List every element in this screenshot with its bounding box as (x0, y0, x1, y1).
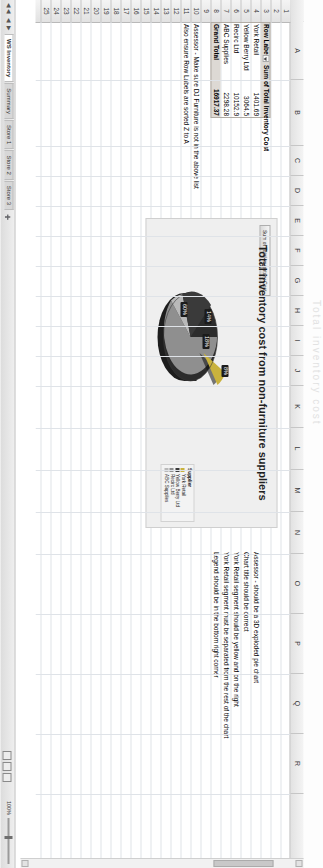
column-header-k[interactable]: K (290, 386, 303, 428)
row-header-12[interactable]: 12 (170, 0, 180, 22)
row-header-5[interactable]: 5 (240, 0, 250, 22)
zoom-slider[interactable] (7, 818, 9, 864)
column-header-f[interactable]: F (290, 236, 303, 266)
note-right-1[interactable]: Chart title should be correct (240, 552, 250, 631)
cells-canvas[interactable]: Row Labels Sum of Total Inventory Cost Y… (35, 22, 290, 868)
note-right-0[interactable]: Assessor - should be a 3D exploded pie c… (250, 552, 260, 683)
column-header-c[interactable]: C (290, 146, 303, 176)
column-header-j[interactable]: J (290, 356, 303, 386)
pivot-row-value-1[interactable]: 3064.5 (240, 82, 250, 116)
pie-plot-area[interactable]: 8% 18% 60% 14% (150, 279, 234, 409)
legend-item-3[interactable]: ABC Supplies (164, 468, 169, 518)
row-header-7[interactable]: 7 (220, 0, 230, 22)
row-header-25[interactable]: 25 (40, 0, 50, 22)
row-header-23[interactable]: 23 (60, 0, 70, 22)
sheet-tab-store-3[interactable]: Store 3 (4, 181, 13, 210)
vertical-scrollbar[interactable] (20, 858, 303, 868)
row-header-1[interactable]: 1 (280, 0, 290, 22)
pivot-row-value-3[interactable]: 2298.28 (220, 82, 230, 116)
pivot-row-label-1[interactable]: Yellow Berry Ltd (240, 24, 250, 71)
column-header-e[interactable]: E (290, 206, 303, 236)
row-header-band: 1234567891011121314151617181920212223242… (35, 0, 290, 23)
chart-legend[interactable]: Supplier York Retail Yellow Berry Ltd (160, 464, 194, 522)
grid-hline (120, 22, 121, 868)
column-header-b[interactable]: B (290, 80, 303, 146)
legend-item-2[interactable]: Recirc Ltd (169, 468, 174, 518)
pivot-grand-total-label[interactable]: Grand Total (210, 24, 220, 60)
pivot-chart[interactable]: Sum of Total Inventory Cost Total invent… (145, 218, 277, 528)
row-header-3[interactable]: 3 (260, 0, 270, 22)
row-header-22[interactable]: 22 (70, 0, 80, 22)
row-header-4[interactable]: 4 (250, 0, 260, 22)
zoom-control[interactable]: 100% (5, 801, 11, 864)
grid-vline (35, 554, 290, 555)
column-header-i[interactable]: I (290, 326, 303, 356)
grid-vline (35, 356, 290, 357)
column-header-a[interactable]: A (290, 22, 303, 80)
nav-prev-icon[interactable]: ◀ (5, 18, 11, 24)
column-header-p[interactable]: P (290, 614, 303, 674)
row-header-2[interactable]: 2 (270, 0, 280, 22)
row-header-6[interactable]: 6 (230, 0, 240, 22)
spreadsheet-sheet: Total inventory cost ABCDEFGHIJKLMNOPQR … (0, 0, 323, 868)
row-header-15[interactable]: 15 (140, 0, 150, 22)
nav-next-icon[interactable]: ▶ (5, 26, 11, 32)
nav-first-icon[interactable]: ◀◀ (5, 3, 11, 15)
grid-vline (35, 794, 290, 795)
row-header-19[interactable]: 19 (100, 0, 110, 22)
pivot-row-value-0[interactable]: 1401.69 (250, 82, 260, 116)
scroll-up-arrow-icon[interactable] (295, 860, 302, 867)
pivot-value-header[interactable]: Sum of Total Inventory Cost (260, 65, 270, 151)
sheet-tab-summary[interactable]: Summary (4, 83, 13, 119)
grid-hline (60, 22, 61, 868)
add-sheet-icon[interactable]: ➕ (4, 214, 10, 220)
legend-item-0[interactable]: York Retail (180, 468, 185, 518)
row-header-13[interactable]: 13 (160, 0, 170, 22)
grid-hline (100, 22, 101, 868)
column-header-g[interactable]: G (290, 266, 303, 296)
row-header-20[interactable]: 20 (90, 0, 100, 22)
row-header-21[interactable]: 21 (80, 0, 90, 22)
column-header-l[interactable]: L (290, 428, 303, 470)
zoom-slider-knob[interactable] (4, 836, 12, 839)
view-page-layout-icon[interactable] (2, 762, 11, 771)
row-header-10[interactable]: 10 (190, 0, 200, 22)
sheet-tab-ws-inventory[interactable]: WS Inventory (4, 34, 13, 82)
row-header-18[interactable]: 18 (110, 0, 120, 22)
note-left-1[interactable]: Also ensure Row Labels are sorted Z to A (180, 24, 190, 144)
column-header-q[interactable]: Q (290, 674, 303, 734)
filter-dropdown-icon[interactable] (262, 55, 269, 62)
row-header-11[interactable]: 11 (180, 0, 190, 22)
column-header-n[interactable]: N (290, 512, 303, 554)
note-right-3[interactable]: York Retail segment must be separated fr… (220, 552, 230, 738)
pivot-grand-total-value[interactable]: 16917.37 (210, 82, 220, 116)
note-left-0[interactable]: Assessor - Make sure DJ Furniture is not… (190, 24, 200, 189)
view-page-break-icon[interactable] (2, 773, 11, 782)
row-header-8[interactable]: 8 (210, 0, 220, 22)
legend-item-1[interactable]: Yellow Berry Ltd (175, 468, 180, 518)
column-header-r[interactable]: R (290, 734, 303, 794)
column-header-d[interactable]: D (290, 176, 303, 206)
sheet-tab-store-1[interactable]: Store 1 (4, 120, 13, 149)
column-header-m[interactable]: M (290, 470, 303, 512)
note-right-2[interactable]: York Retail segment should be yellow and… (230, 552, 240, 707)
grid-hline (280, 22, 281, 868)
grid-vline (35, 176, 290, 177)
pivot-row-label-0[interactable]: York Retail (250, 24, 260, 55)
row-header-24[interactable]: 24 (50, 0, 60, 22)
pivot-row-label-2[interactable]: Recirc Ltd (230, 24, 240, 53)
view-normal-icon[interactable] (2, 751, 11, 760)
row-header-9[interactable]: 9 (200, 0, 210, 22)
sheet-tab-store-2[interactable]: Store 2 (4, 150, 13, 179)
column-header-h[interactable]: H (290, 296, 303, 326)
sheet-tab-strip[interactable]: WS InventorySummaryStore 1Store 2Store 3… (4, 34, 13, 220)
view-mode-buttons[interactable] (2, 751, 11, 782)
row-header-14[interactable]: 14 (150, 0, 160, 22)
scroll-down-arrow-icon[interactable] (21, 860, 28, 867)
column-header-o[interactable]: O (290, 554, 303, 614)
scrollbar-thumb[interactable] (213, 860, 273, 867)
row-header-17[interactable]: 17 (120, 0, 130, 22)
row-header-16[interactable]: 16 (130, 0, 140, 22)
pivot-row-label-3[interactable]: ABC Supplies (220, 24, 230, 64)
pivot-row-value-2[interactable]: 10152.9 (230, 82, 240, 116)
